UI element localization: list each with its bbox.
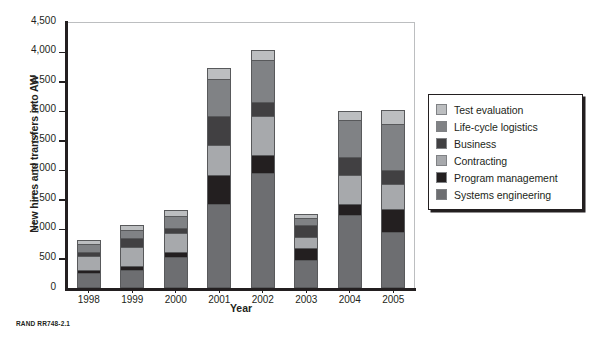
y-axis-tick-label: 1,000: [12, 221, 56, 232]
bar-segment: [294, 248, 318, 260]
legend-item: Life-cycle logistics: [436, 118, 576, 135]
bar-segment: [207, 116, 231, 145]
x-axis-title: Year: [67, 302, 415, 314]
bar-2004: [338, 111, 362, 288]
figure-source-note: RAND RR748-2.1: [16, 320, 70, 327]
legend-swatch-icon: [436, 138, 447, 149]
bar-segment: [77, 273, 101, 288]
bar-segment: [338, 204, 362, 215]
bar-segment: [251, 155, 275, 173]
x-axis-tick: [262, 288, 263, 293]
bar-1999: [120, 225, 144, 288]
bar-segment: [338, 111, 362, 120]
bar-segment: [251, 50, 275, 61]
bar-2005: [381, 110, 405, 288]
y-axis-tick-label: 2,500: [12, 133, 56, 144]
legend-item: Program management: [436, 169, 576, 186]
bar-segment: [251, 102, 275, 116]
legend-item: Test evaluation: [436, 101, 576, 118]
y-axis-tick: [59, 52, 67, 53]
bar-2000: [164, 210, 188, 288]
y-axis-tick-label: 3,500: [12, 74, 56, 85]
bar-2001: [207, 68, 231, 288]
bar-2003: [294, 214, 318, 288]
bar-segment: [338, 175, 362, 204]
x-axis-tick: [219, 288, 220, 293]
bar-segment: [120, 247, 144, 265]
legend-label: Business: [454, 138, 496, 150]
legend-swatch-icon: [436, 172, 447, 183]
legend-item: Contracting: [436, 152, 576, 169]
y-axis-tick-label: 3,000: [12, 103, 56, 114]
y-axis-tick: [59, 81, 67, 82]
y-axis-tick-label: 4,000: [12, 44, 56, 55]
bar-segment: [251, 173, 275, 288]
y-axis-title: New hires and transfers into AW: [28, 24, 40, 284]
y-axis-tick: [59, 258, 67, 259]
y-axis-tick: [59, 140, 67, 141]
bar-segment: [207, 68, 231, 79]
bar-segment: [164, 233, 188, 252]
bar-segment: [381, 124, 405, 170]
legend-swatch-icon: [436, 155, 447, 166]
bar-segment: [251, 60, 275, 102]
legend-swatch-icon: [436, 121, 447, 132]
bar-2002: [251, 50, 275, 288]
plot-background: [67, 22, 415, 288]
bar-segment: [164, 257, 188, 288]
bar-segment: [338, 215, 362, 288]
x-axis-line: [65, 288, 416, 291]
y-axis-tick: [59, 170, 67, 171]
bar-segment: [381, 184, 405, 209]
x-axis-tick: [393, 288, 394, 293]
plot-area: 05001,0001,5002,0002,5003,0003,5004,0004…: [67, 22, 415, 288]
bar-segment: [294, 225, 318, 237]
bar-segment: [381, 170, 405, 184]
bar-segment: [120, 238, 144, 247]
y-axis-tick-label: 2,000: [12, 162, 56, 173]
bar-segment: [294, 260, 318, 288]
x-axis-tick: [88, 288, 89, 293]
bar-segment: [338, 120, 362, 157]
bar-segment: [120, 230, 144, 238]
legend-label: Program management: [454, 172, 558, 184]
bar-segment: [120, 270, 144, 288]
bar-segment: [294, 237, 318, 248]
y-axis-tick: [59, 111, 67, 112]
y-axis-tick-label: 0: [12, 281, 56, 292]
bar-segment: [164, 216, 188, 228]
bar-segment: [77, 244, 101, 252]
y-axis-tick: [59, 229, 67, 230]
bar-segment: [251, 116, 275, 155]
y-axis-tick-label: 4,500: [12, 15, 56, 26]
bar-segment: [381, 110, 405, 124]
bar-segment: [381, 209, 405, 231]
bar-segment: [381, 232, 405, 288]
y-axis-tick: [59, 199, 67, 200]
bar-segment: [207, 204, 231, 288]
figure-stacked-bar-chart: New hires and transfers into AW 05001,00…: [0, 0, 595, 341]
legend-swatch-icon: [436, 104, 447, 115]
legend-item: Systems engineering: [436, 186, 576, 203]
legend-swatch-icon: [436, 189, 447, 200]
x-axis-tick: [349, 288, 350, 293]
bar-segment: [207, 145, 231, 175]
legend-label: Contracting: [454, 155, 507, 167]
legend-label: Test evaluation: [454, 104, 523, 116]
y-axis-tick-label: 500: [12, 251, 56, 262]
y-axis-line: [65, 21, 68, 289]
bar-segment: [207, 175, 231, 205]
bar-segment: [207, 79, 231, 116]
bar-segment: [77, 256, 101, 270]
x-axis-tick: [132, 288, 133, 293]
y-axis-tick-label: 1,500: [12, 192, 56, 203]
bar-1998: [77, 240, 101, 288]
chart-legend: Test evaluationLife-cycle logisticsBusin…: [428, 94, 583, 210]
x-axis-tick: [175, 288, 176, 293]
legend-label: Systems engineering: [454, 189, 551, 201]
legend-item: Business: [436, 135, 576, 152]
bar-segment: [338, 157, 362, 175]
legend-label: Life-cycle logistics: [454, 121, 538, 133]
x-axis-tick: [306, 288, 307, 293]
